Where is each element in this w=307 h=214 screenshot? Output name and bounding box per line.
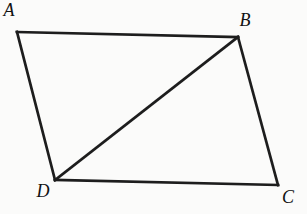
edge-AB [17,32,238,37]
vertex-label-D: D [36,181,50,201]
vertex-label-B: B [240,10,251,30]
edge-DB-diagonal [55,37,238,180]
edge-CD [55,180,278,185]
edge-BC [238,37,278,185]
quadrilateral-diagram: ABCD [0,0,307,214]
vertex-label-A: A [3,0,16,20]
geometry-figure: ABCD [0,0,307,214]
edge-DA [17,32,55,180]
vertex-label-C: C [282,187,295,207]
